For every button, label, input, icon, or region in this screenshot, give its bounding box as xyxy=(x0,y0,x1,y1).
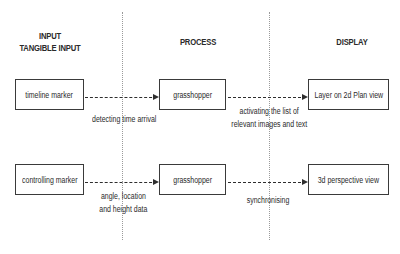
box-layer-2d-plan-view: Layer on 2d Plan view xyxy=(308,79,389,110)
box-label: Layer on 2d Plan view xyxy=(314,90,383,100)
header-display-title: DISPLAY xyxy=(327,36,378,48)
box-grasshopper-2: grasshopper xyxy=(159,164,226,195)
label-line: angle, location xyxy=(101,190,146,203)
box-grasshopper-1: grasshopper xyxy=(159,79,226,110)
box-controlling-marker: controlling marker xyxy=(15,164,84,195)
label-line: relevant images and text xyxy=(231,118,307,131)
label-line: activating the list of xyxy=(239,105,298,118)
box-timeline-marker: timeline marker xyxy=(15,79,84,110)
arrow-process-to-display-1 xyxy=(228,97,306,98)
label-angle-location-height: angle, location and height data xyxy=(84,190,162,216)
box-label: controlling marker xyxy=(22,175,77,185)
label-synchronising: synchronising xyxy=(238,194,298,207)
label-line: and height data xyxy=(99,203,147,216)
arrow-input-to-process-2 xyxy=(85,182,157,183)
arrow-input-to-process-1 xyxy=(85,97,157,98)
header-input-subtitle: TANGIBLE INPUT xyxy=(16,42,84,54)
label-line: synchronising xyxy=(247,194,290,207)
arrow-process-to-display-2 xyxy=(228,182,306,183)
label-detecting-time-arrival: detecting time arrival xyxy=(80,113,168,126)
box-label: 3d perspective view xyxy=(318,175,379,185)
header-input: INPUT TANGIBLE INPUT xyxy=(16,30,84,54)
label-activating-list: activating the list of relevant images a… xyxy=(222,105,316,131)
header-display: DISPLAY xyxy=(327,36,378,48)
box-3d-perspective-view: 3d perspective view xyxy=(308,164,389,195)
label-line: detecting time arrival xyxy=(92,113,156,126)
box-label: grasshopper xyxy=(173,90,212,100)
header-process-title: PROCESS xyxy=(164,36,232,48)
header-input-title: INPUT xyxy=(16,30,84,42)
header-process: PROCESS xyxy=(164,36,232,48)
box-label: timeline marker xyxy=(26,90,74,100)
box-label: grasshopper xyxy=(173,175,212,185)
